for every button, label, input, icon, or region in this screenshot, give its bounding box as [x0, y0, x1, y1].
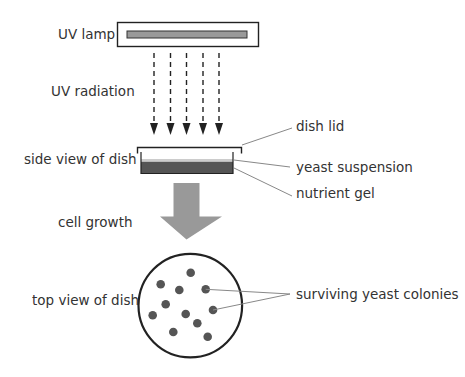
uv-rays	[154, 53, 219, 124]
colony-dot	[175, 286, 184, 295]
colony-dot	[181, 310, 190, 319]
arrowhead-icon	[167, 123, 175, 135]
yeast-suspension-label: yeast suspension	[296, 159, 413, 175]
dish-lid-leader	[242, 128, 292, 145]
colony-dot	[169, 328, 178, 337]
colony-dot	[148, 311, 157, 320]
side-view-label: side view of dish	[24, 151, 137, 167]
nutrient-gel-label: nutrient gel	[296, 185, 375, 201]
leader-lines	[234, 128, 292, 196]
nutrient-gel-leader	[234, 168, 292, 196]
surviving-colonies-label: surviving yeast colonies	[296, 286, 459, 302]
colony-dot	[203, 332, 212, 341]
arrowhead-icon	[199, 123, 207, 135]
colony-dot	[193, 319, 202, 328]
top-view-label: top view of dish	[32, 292, 139, 308]
yeast-suspension	[141, 159, 233, 162]
dish-side-view	[138, 148, 242, 174]
yeast-suspension-leader	[234, 160, 290, 167]
dish-top-view	[139, 254, 243, 358]
dish-lid-label: dish lid	[296, 118, 344, 134]
uv-lamp	[118, 23, 259, 47]
uv-radiation-label: UV radiation	[51, 83, 135, 99]
arrowhead-icon	[183, 123, 191, 135]
arrowhead-icon	[150, 123, 158, 135]
arrowhead-icon	[215, 123, 223, 135]
uv-lamp-label: UV lamp	[58, 26, 115, 42]
growth-arrow-icon	[160, 183, 222, 240]
uv-ray-arrowheads	[150, 123, 223, 135]
uv-mutagenesis-diagram: UV lamp UV radiation side view of dish d…	[0, 0, 465, 377]
colony-dot	[186, 268, 195, 277]
nutrient-gel	[141, 162, 233, 174]
dish-lid	[138, 148, 242, 154]
colony-dot	[156, 280, 165, 289]
cell-growth-label: cell growth	[58, 214, 133, 230]
lamp-tube	[127, 31, 247, 38]
colony-dot	[161, 300, 170, 309]
